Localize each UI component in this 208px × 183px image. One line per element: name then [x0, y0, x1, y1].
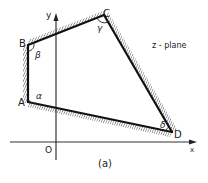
angle-label-delta: δ — [160, 120, 166, 130]
edge-DA — [28, 102, 172, 132]
plane-label: z - plane — [152, 41, 186, 50]
vertex-label-C: C — [103, 8, 110, 19]
y-axis-arrow-icon — [54, 13, 59, 21]
angle-label-alpha: α — [36, 91, 42, 101]
z-plane-diagram: A B C D α β γ δ y x O z - plane (a) — [0, 0, 208, 183]
origin-label: O — [45, 145, 52, 155]
angle-label-gamma: γ — [97, 23, 103, 33]
angle-label-beta: β — [34, 50, 41, 60]
edge-CD — [104, 15, 172, 132]
vertex-label-B: B — [19, 38, 26, 49]
y-axis-label: y — [46, 10, 52, 20]
vertex-label-A: A — [18, 97, 25, 108]
edge-BC — [28, 15, 104, 45]
x-axis-arrow-icon — [189, 140, 197, 145]
figure-caption: (a) — [98, 158, 112, 169]
x-axis-label: x — [190, 146, 194, 154]
vertex-label-D: D — [174, 129, 182, 140]
axes — [10, 13, 197, 160]
